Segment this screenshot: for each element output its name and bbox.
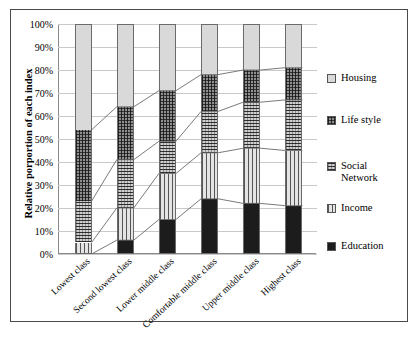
legend-item[interactable]: Social Network — [327, 160, 378, 183]
y-tick-label: 70% — [35, 88, 53, 99]
bar-segment-life-style[interactable] — [285, 68, 302, 100]
gridline — [58, 24, 317, 25]
swatch-lifestyle-icon — [327, 116, 336, 125]
legend-item-label: Social Network — [341, 160, 378, 183]
gridline — [58, 93, 317, 94]
gridline — [58, 47, 317, 48]
bar-segment-housing[interactable] — [75, 24, 92, 130]
y-tick-label: 90% — [35, 42, 53, 53]
plot-area: 0%10%20%30%40%50%60%70%80%90%100% — [58, 24, 311, 254]
gridline — [58, 70, 317, 71]
y-tick-label: 100% — [30, 19, 53, 30]
swatch-social-icon — [327, 162, 336, 171]
legend-item-label: Housing — [341, 72, 377, 84]
x-tick-label-text: Lowest class — [49, 256, 92, 297]
bar-segment-housing[interactable] — [201, 24, 218, 75]
y-tick-label: 10% — [35, 226, 53, 237]
x-tick-label-text: Highest class — [259, 256, 303, 298]
gridline — [58, 162, 317, 163]
legend-item[interactable]: Housing — [327, 72, 377, 84]
y-tick-label: 50% — [35, 134, 53, 145]
legend-item[interactable]: Education — [327, 240, 384, 252]
x-tick-label-text: Comfortable middle class — [140, 256, 218, 330]
stacked-bar[interactable] — [117, 24, 134, 254]
bar-segment-housing[interactable] — [117, 24, 134, 107]
y-tick-label: 60% — [35, 111, 53, 122]
bar-segment-housing[interactable] — [285, 24, 302, 68]
gridline — [58, 185, 317, 186]
legend-item[interactable]: Income — [327, 202, 373, 214]
y-tick-label: 0% — [40, 249, 53, 260]
bar-segment-life-style[interactable] — [201, 75, 218, 112]
bar-segment-social-network[interactable] — [285, 100, 302, 151]
bar-segment-life-style[interactable] — [243, 70, 260, 102]
gridline — [58, 139, 317, 140]
swatch-education-icon — [327, 242, 336, 251]
y-tick-label: 80% — [35, 65, 53, 76]
bar-segment-income[interactable] — [201, 153, 218, 199]
swatch-income-icon — [327, 204, 336, 213]
bar-segment-social-network[interactable] — [75, 201, 92, 242]
legend-item-label: Income — [341, 202, 373, 214]
stacked-bar[interactable] — [75, 24, 92, 254]
bar-segment-social-network[interactable] — [117, 160, 134, 208]
chart-screenshot: Relative porportion of each index 0%10%2… — [0, 0, 419, 340]
bar-segment-social-network[interactable] — [159, 141, 176, 173]
bar-segment-housing[interactable] — [159, 24, 176, 91]
y-tick-label: 20% — [35, 203, 53, 214]
swatch-housing-icon — [327, 74, 336, 83]
y-tick-label: 40% — [35, 157, 53, 168]
bar-segment-life-style[interactable] — [117, 107, 134, 160]
legend-item-label: Life style — [341, 114, 381, 126]
y-tick-label: 30% — [35, 180, 53, 191]
gridline — [58, 116, 317, 117]
y-axis-title: Relative porportion of each index — [23, 44, 34, 244]
bar-segment-social-network[interactable] — [201, 111, 218, 152]
x-axis-tick-labels: Lowest classSecond lowest classLower mid… — [58, 256, 368, 340]
chart-frame: Relative porportion of each index 0%10%2… — [10, 9, 408, 322]
legend-item[interactable]: Life style — [327, 114, 381, 126]
bar-segment-housing[interactable] — [243, 24, 260, 70]
bar-segment-social-network[interactable] — [243, 102, 260, 148]
legend-item-label: Education — [341, 240, 384, 252]
bar-segment-life-style[interactable] — [75, 130, 92, 201]
bar-segment-life-style[interactable] — [159, 91, 176, 142]
bar-segment-income[interactable] — [243, 148, 260, 203]
